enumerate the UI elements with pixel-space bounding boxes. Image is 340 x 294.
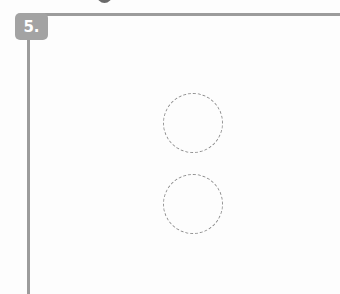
- cropped-bullet-icon: [97, 0, 112, 3]
- worksheet-page: 5.: [0, 0, 340, 294]
- section-top-rule: [40, 13, 340, 16]
- exercise-number: 5.: [23, 18, 39, 36]
- exercise-number-badge: 5.: [15, 13, 48, 40]
- section-left-rule: [27, 36, 30, 294]
- answer-circle-1[interactable]: [163, 93, 223, 153]
- answer-circle-2[interactable]: [163, 174, 223, 234]
